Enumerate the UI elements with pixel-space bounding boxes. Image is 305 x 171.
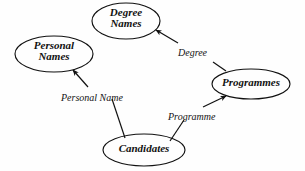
node-ellipse-personal-names[interactable] [15,36,93,72]
edge-line-candidates-to-personal-names[interactable] [112,99,125,138]
diagram-svg [0,0,305,171]
node-ellipse-degree-names[interactable] [92,3,160,39]
edge-arrow-candidates-to-programmes [203,96,226,107]
edge-line-candidates-to-programmes[interactable] [170,120,184,141]
edge-arrow-programmes-to-degree-names [156,30,178,43]
diagram-canvas: Degree Names Personal Names Programmes C… [0,0,305,171]
node-ellipse-candidates[interactable] [103,134,185,166]
edge-line-programmes-to-degree-names[interactable] [213,62,226,71]
edge-arrow-candidates-to-personal-names [73,70,88,87]
node-ellipse-programmes[interactable] [212,69,290,99]
